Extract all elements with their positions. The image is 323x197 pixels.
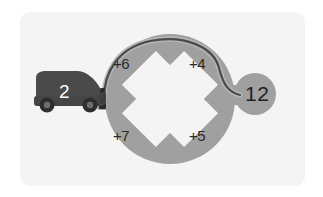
exit-label-bottom-left: +7 (113, 128, 129, 143)
exit-label-top-left: +6 (113, 56, 129, 71)
exit-label-top-right: +4 (189, 56, 205, 71)
diagram-canvas: +6 +4 +7 +5 2 12 (0, 0, 323, 197)
exit-label-bottom-right: +5 (189, 128, 205, 143)
vehicle-label: 2 (59, 82, 70, 101)
roundabout-diagram-svg (0, 0, 323, 197)
roundabout-icon (100, 30, 240, 170)
car-icon (34, 71, 106, 113)
destination-label: 12 (245, 83, 269, 104)
